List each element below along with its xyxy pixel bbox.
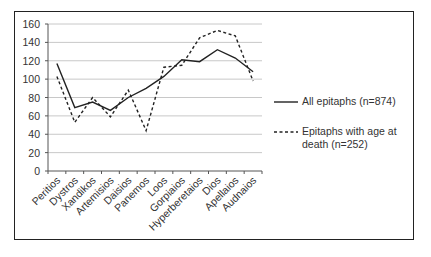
legend-solid-label: All epitaphs (n=874) xyxy=(302,95,396,108)
y-tick-label: 0 xyxy=(34,165,40,177)
y-tick-label: 40 xyxy=(28,128,40,140)
series-all-epitaphs-line xyxy=(57,50,253,111)
legend-dashed-label-line1: Epitaphs with age at xyxy=(302,125,397,138)
y-tick-label: 20 xyxy=(28,147,40,159)
y-tick-label: 80 xyxy=(28,92,40,104)
legend-dashed-label-line2: death (n=252) xyxy=(302,138,368,151)
y-tick-label: 160 xyxy=(22,18,40,30)
gridlines xyxy=(48,24,262,153)
y-tick-label: 100 xyxy=(22,73,40,85)
legend-swatches xyxy=(274,102,298,132)
y-tick-label: 120 xyxy=(22,55,40,67)
y-tick-label: 140 xyxy=(22,36,40,48)
y-tick-label: 60 xyxy=(28,110,40,122)
x-axis: PeritiosDystrosXandikosArtemisiosDaisios… xyxy=(29,171,262,233)
y-axis: 020406080100120140160 xyxy=(22,18,48,177)
